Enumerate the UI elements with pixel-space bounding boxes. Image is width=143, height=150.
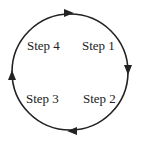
step-3-label: Step 3 [26, 91, 59, 107]
arrow-up-icon [8, 70, 16, 80]
arrow-right-icon [64, 9, 74, 17]
cycle-diagram [0, 0, 143, 150]
arrow-left-icon [67, 127, 77, 135]
arrow-down-icon [124, 65, 132, 75]
step-2-label: Step 2 [83, 91, 116, 107]
step-1-label: Step 1 [82, 38, 115, 54]
cycle-circle [12, 14, 128, 130]
step-4-label: Step 4 [27, 38, 60, 54]
